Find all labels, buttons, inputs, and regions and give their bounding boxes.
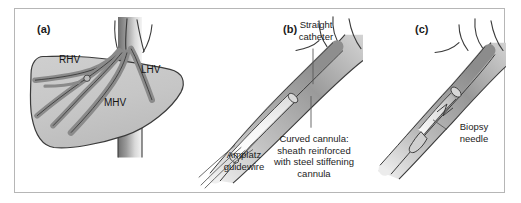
figure-root: (a) RHV LHV MHV — [0, 0, 521, 203]
label-straight-catheter: Straight catheter — [281, 19, 351, 42]
figure-frame: (a) RHV LHV MHV — [14, 8, 505, 193]
label-right-hepatic-vein: RHV — [59, 54, 80, 65]
label-left-hepatic-vein: LHV — [141, 64, 160, 75]
panel-c: (c) Biopsy needle — [363, 9, 506, 192]
label-biopsy-needle: Biopsy needle — [449, 121, 499, 144]
panel-a: (a) RHV LHV MHV — [15, 9, 193, 192]
panel-c-illustration — [363, 9, 506, 192]
panel-c-label: (c) — [415, 23, 428, 35]
label-curved-cannula: Curved cannula: sheath reinforced with s… — [266, 133, 362, 179]
panel-b: (b) Straight catheter Amplatz guidewire … — [193, 9, 363, 192]
label-middle-hepatic-vein: MHV — [104, 97, 126, 108]
panel-a-label: (a) — [37, 23, 50, 35]
